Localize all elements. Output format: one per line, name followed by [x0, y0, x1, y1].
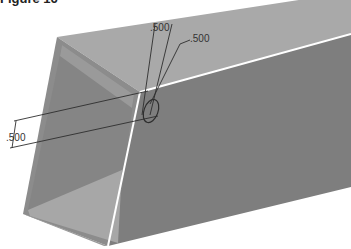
tube-drawing: .500 .500 .500 [0, 0, 351, 249]
dim-label-top-left: .500 [150, 22, 170, 33]
dim-label-top-right: .500 [190, 33, 210, 44]
dim-label-side: .500 [6, 132, 26, 143]
